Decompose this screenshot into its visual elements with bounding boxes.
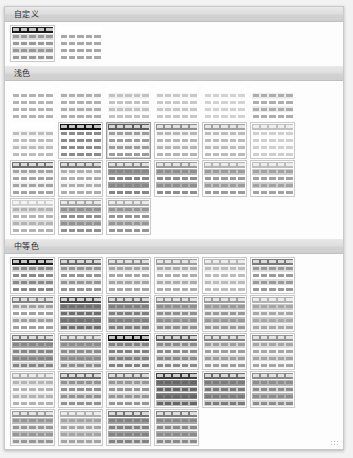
light-16[interactable] [155,161,198,196]
thumb-cell [29,336,35,339]
medium-26[interactable] [59,410,102,445]
medium-20[interactable] [59,372,102,407]
thumb-cell [21,101,27,104]
thumb-row [60,138,101,144]
thumb-cell [286,125,292,128]
light-6[interactable] [251,85,294,120]
thumb-cell [77,125,83,128]
medium-3[interactable] [107,258,150,293]
medium-9[interactable] [107,296,150,331]
medium-21[interactable] [107,372,150,407]
light-7[interactable] [11,123,54,158]
medium-19[interactable] [11,372,54,407]
medium-27[interactable] [107,410,150,445]
thumb-cell [173,374,179,377]
thumb-cell [69,153,75,156]
medium-28[interactable] [155,410,198,445]
light-1[interactable] [11,85,54,120]
thumb-cell [221,364,227,367]
medium-4[interactable] [155,258,198,293]
light-18[interactable] [251,161,294,196]
medium-7[interactable] [11,296,54,331]
light-11[interactable] [203,123,246,158]
thumb-cell [61,184,67,187]
medium-22[interactable] [155,372,198,407]
light-21[interactable] [107,199,150,234]
medium-10[interactable] [155,296,198,331]
light-15[interactable] [107,161,150,196]
medium-5[interactable] [203,258,246,293]
thumb-row [108,169,149,175]
thumb-cell [86,229,92,232]
light-5[interactable] [203,85,246,120]
medium-15[interactable] [107,334,150,369]
light-2[interactable] [59,85,102,120]
thumb-cell [86,381,92,384]
thumb-cell [173,177,179,180]
thumb-cell [165,125,171,128]
medium-25[interactable] [11,410,54,445]
light-4[interactable] [155,85,198,120]
thumb-row [204,151,245,157]
thumb-cell [157,108,163,111]
light-3[interactable] [107,85,150,120]
thumb-cell [94,229,100,232]
thumb-cell [205,132,211,135]
thumb-cell [190,336,196,339]
thumb-preview [156,162,197,195]
thumb-cell [69,343,75,346]
light-8[interactable] [59,123,102,158]
thumb-cell [94,419,100,422]
thumb-cell [109,336,115,339]
thumb-cell [238,402,244,405]
medium-8[interactable] [59,296,102,331]
light-9[interactable] [107,123,150,158]
light-17[interactable] [203,161,246,196]
custom-style-1[interactable] [11,26,54,61]
section-label: 浅色 [14,70,31,78]
medium-6[interactable] [251,258,294,293]
section-header-custom: 自定义 [5,7,343,22]
medium-18[interactable] [251,334,294,369]
medium-14[interactable] [59,334,102,369]
thumb-row [60,100,101,106]
table-styles-gallery[interactable]: 自定义浅色中等色深色新建表格样式(N)...新建数据透视表样式(P)... [4,6,344,450]
light-10[interactable] [155,123,198,158]
thumb-cell [29,433,35,436]
medium-12[interactable] [251,296,294,331]
resize-grip[interactable] [330,440,340,447]
thumb-cell [69,132,75,135]
medium-1[interactable] [11,258,54,293]
thumb-row [108,86,149,92]
medium-2[interactable] [59,258,102,293]
thumb-cell [134,229,140,232]
light-12[interactable] [251,123,294,158]
medium-13[interactable] [11,334,54,369]
thumb-cell [213,336,219,339]
thumb-cell [253,125,259,128]
thumb-cell [182,326,188,329]
thumb-cell [157,336,163,339]
thumb-cell [182,319,188,322]
medium-11[interactable] [203,296,246,331]
medium-24[interactable] [251,372,294,407]
custom-style-2[interactable] [59,26,102,61]
medium-17[interactable] [203,334,246,369]
thumb-cell [13,115,19,118]
thumb-cell [61,28,67,31]
thumb-cell [238,191,244,194]
thumb-cell [190,388,196,391]
thumb-cell [29,364,35,367]
medium-16[interactable] [155,334,198,369]
medium-23[interactable] [203,372,246,407]
light-19[interactable] [11,199,54,234]
thumb-row [60,169,101,175]
thumb-cell [109,215,115,218]
light-14[interactable] [59,161,102,196]
light-20[interactable] [59,199,102,234]
light-13[interactable] [11,161,54,196]
thumb-cell [125,319,131,322]
thumb-cell [38,229,44,232]
thumb-cell [38,222,44,225]
thumb-cell [190,153,196,156]
